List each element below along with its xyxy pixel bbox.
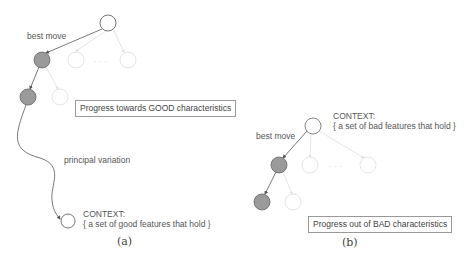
caption-b: (b) [342,236,358,249]
context-node [61,214,75,228]
principal-variation-label: principal variation [64,155,130,165]
progress-box-b: Progress out of BAD characteristics [308,216,452,233]
context-title-a: CONTEXT: [83,209,125,219]
alt-node [68,52,84,68]
progress-box-a: Progress towards GOOD characteristics [75,100,236,117]
svg-text:...: ... [329,160,345,169]
best-move-label-a: best move [27,31,66,41]
best-move-label-b: best move [256,131,295,141]
alt-node [302,157,318,173]
context-text-a: { a set of good features that hold } [83,219,211,229]
alt-node [52,89,68,105]
pv-node [20,89,36,105]
best-move-node [34,52,50,68]
svg-text:...: ... [94,55,110,64]
pv-node [254,194,270,210]
root-node [100,15,116,31]
root-node [305,118,321,134]
alt-node [360,157,376,173]
context-title-b: CONTEXT: [333,111,375,121]
caption-a: (a) [117,235,132,248]
alt-node [285,194,301,210]
alt-node [120,52,136,68]
tree-a: ... [17,15,136,228]
context-text-b: { a set of bad features that hold } [333,121,456,131]
best-move-node [271,157,287,173]
